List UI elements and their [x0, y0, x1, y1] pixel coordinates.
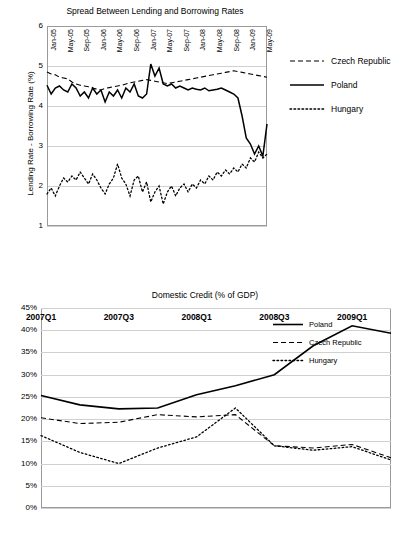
ytick-label: 5% — [25, 482, 37, 490]
legend-label-hungary: Hungary — [309, 356, 337, 365]
chart-credit-plot: 0%5%10%15%20%25%30%35%40%45% 2007Q12007Q… — [41, 308, 391, 508]
legend-label-hungary: Hungary — [331, 104, 363, 114]
xtick-label: Jan-07 — [150, 29, 157, 50]
ytick-label: 15% — [21, 437, 37, 445]
xtick-label: Sep-07 — [183, 29, 190, 52]
ytick-label: 25% — [21, 393, 37, 401]
page-root: Spread Between Lending and Borrowing Rat… — [0, 0, 412, 553]
gridline — [41, 508, 391, 509]
xtick-label: Jan-09 — [249, 29, 256, 50]
legend-swatch-hungary — [290, 104, 324, 114]
ytick-label: 0% — [25, 504, 37, 512]
legend-item-poland: Poland — [273, 320, 362, 329]
chart-credit-legend: Poland Czech Republic Hungary — [273, 320, 362, 374]
ytick-label: 45% — [21, 304, 37, 312]
legend-item-hungary: Hungary — [273, 356, 362, 365]
chart-spread-legend: Czech Republic Poland Hungary — [290, 56, 391, 128]
legend-swatch-poland — [273, 320, 303, 329]
legend-item-poland: Poland — [290, 80, 391, 90]
ytick-6: 6 — [39, 22, 43, 30]
ytick-label: 20% — [21, 415, 37, 423]
legend-label-czech: Czech Republic — [331, 56, 391, 66]
ytick-label: 40% — [21, 326, 37, 334]
xtick-label: Jan-06 — [100, 29, 107, 50]
xtick-label: Sep-05 — [83, 29, 90, 52]
legend-swatch-poland — [290, 80, 324, 90]
ytick-2: 2 — [39, 182, 43, 190]
ytick-3: 3 — [39, 142, 43, 150]
ytick-4: 4 — [39, 102, 43, 110]
ytick-label: 30% — [21, 371, 37, 379]
xtick-label: 2007Q1 — [26, 312, 56, 322]
ytick-label: 35% — [21, 348, 37, 356]
xtick-label: May-05 — [67, 29, 74, 52]
xtick-label: May-09 — [266, 29, 273, 52]
chart-credit-title: Domestic Credit (% of GDP) — [40, 290, 370, 300]
ytick-label: 10% — [21, 460, 37, 468]
legend-swatch-hungary — [273, 356, 303, 365]
xtick-label: May-06 — [116, 29, 123, 52]
chart-domestic-credit: Domestic Credit (% of GDP) 0%5%10%15%20%… — [0, 288, 412, 553]
xtick-label: Jan-08 — [199, 29, 206, 50]
ytick-5: 5 — [39, 62, 43, 70]
legend-label-czech: Czech Republic — [309, 338, 362, 347]
xtick-label: Jan-05 — [50, 29, 57, 50]
xtick-label: Sep-06 — [133, 29, 140, 52]
xtick-label: 2007Q3 — [104, 312, 134, 322]
xtick-label: 2008Q1 — [181, 312, 211, 322]
xtick-label: Sep-08 — [233, 29, 240, 52]
chart-spread-ylabel: Lending Rate - Borrowing Rate (%) — [26, 54, 35, 214]
chart-spread: Spread Between Lending and Borrowing Rat… — [0, 4, 412, 272]
ytick-1: 1 — [39, 222, 43, 230]
legend-label-poland: Poland — [309, 320, 332, 329]
chart-spread-plot: 1 2 3 4 5 6 Jan-05May-05Sep-05Jan-06May-… — [47, 26, 267, 226]
legend-item-czech: Czech Republic — [290, 56, 391, 66]
chart-spread-lines — [47, 26, 267, 226]
xtick-label: May-07 — [166, 29, 173, 52]
legend-item-czech: Czech Republic — [273, 338, 362, 347]
legend-label-poland: Poland — [331, 80, 357, 90]
gridline — [47, 226, 267, 227]
chart-spread-title: Spread Between Lending and Borrowing Rat… — [30, 6, 280, 16]
legend-swatch-czech — [290, 56, 324, 66]
legend-item-hungary: Hungary — [290, 104, 391, 114]
legend-swatch-czech — [273, 338, 303, 347]
xtick-label: May-08 — [216, 29, 223, 52]
